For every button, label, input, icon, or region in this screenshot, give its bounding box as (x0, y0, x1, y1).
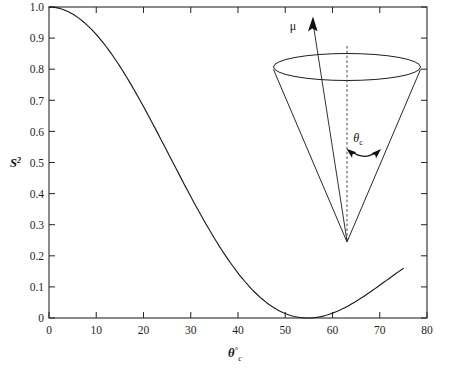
y-tick-label: 0.8 (30, 63, 45, 75)
y-axis-title-text: S2 (10, 156, 21, 170)
x-tick-labels: 0 10 20 30 40 50 60 70 80 (46, 324, 433, 336)
mu-vector-label: μ (290, 19, 296, 33)
y-tick-label: 0.4 (30, 188, 45, 200)
theta-c-subscript: c (359, 138, 363, 147)
cone-right-edge (347, 70, 421, 243)
x-tick-label: 40 (232, 324, 244, 336)
y-tick-label: 0.9 (30, 32, 45, 44)
x-axis-title-subscript: c (238, 353, 242, 363)
x-tick-label: 30 (185, 324, 197, 336)
plot-frame-rect (49, 7, 427, 318)
y-tick-label: 0.2 (30, 250, 45, 262)
x-tick-label: 70 (374, 324, 386, 336)
x-axis-title-text: θ°c (228, 346, 242, 363)
x-axis-ticks-top (96, 7, 380, 13)
x-axis-title: θ°c (228, 346, 242, 363)
plot-frame (49, 7, 427, 318)
x-tick-label: 80 (421, 324, 433, 336)
y-tick-label: 0.5 (30, 157, 45, 169)
theta-c-arc-arrowhead-right (372, 149, 381, 159)
y-tick-label: 0.3 (30, 219, 45, 231)
x-tick-label: 60 (327, 324, 339, 336)
y-tick-label: 0 (38, 312, 44, 324)
y-tick-label: 0.6 (30, 126, 45, 138)
y-axis-title: S2 (10, 156, 21, 170)
cone-inset-diagram: μ θc (274, 17, 421, 243)
x-tick-label: 10 (91, 324, 103, 336)
mu-vector-arrowhead (308, 17, 318, 32)
y-axis-title-symbol: S (10, 156, 17, 170)
x-tick-label: 0 (46, 324, 52, 336)
theta-c-angle-label: θc (353, 131, 363, 147)
x-axis-ticks-bottom (49, 312, 427, 318)
y-axis-title-superscript: 2 (16, 156, 21, 165)
y-tick-labels: 1.0 0.9 0.8 0.7 0.6 0.5 0.4 0.3 0.2 0.1 … (30, 1, 45, 324)
mu-vector-line (314, 26, 348, 241)
y-tick-label: 0.1 (30, 281, 45, 293)
y-axis-ticks-right (421, 7, 427, 318)
y-axis-ticks-left (49, 7, 55, 318)
cone-left-edge (274, 70, 348, 243)
figure-root: 1.0 0.9 0.8 0.7 0.6 0.5 0.4 0.3 0.2 0.1 … (0, 0, 454, 370)
x-tick-label: 50 (280, 324, 292, 336)
x-tick-label: 20 (138, 324, 150, 336)
y-tick-label: 0.7 (30, 95, 45, 107)
y-tick-label: 1.0 (30, 1, 45, 13)
chart-figure: 1.0 0.9 0.8 0.7 0.6 0.5 0.4 0.3 0.2 0.1 … (0, 0, 454, 370)
